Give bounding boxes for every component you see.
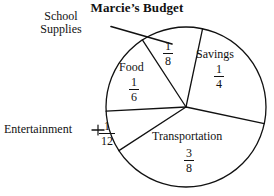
slice-value-food: 1 6 — [129, 76, 139, 103]
pie-chart-figure: Marcie’s Budget School Supplies 1 8 Food… — [0, 0, 274, 196]
slice-value-transportation-numerator: 3 — [184, 147, 194, 159]
slice-label-transportation: Transportation — [152, 130, 222, 142]
slice-value-food-numerator: 1 — [129, 76, 139, 88]
slice-value-savings-denominator: 4 — [214, 78, 224, 90]
slice-value-school-supplies-numerator: 1 — [163, 40, 173, 52]
slice-value-savings-numerator: 1 — [214, 63, 224, 75]
slice-value-school-supplies-denominator: 8 — [163, 55, 173, 67]
slice-value-savings: 1 4 — [214, 63, 224, 90]
slice-label-school-supplies-line1: School — [22, 10, 100, 23]
slice-value-entertainment-denominator: 12 — [99, 135, 115, 147]
slice-label-entertainment: Entertainment — [4, 123, 72, 135]
slice-value-food-denominator: 6 — [129, 91, 139, 103]
slice-value-school-supplies: 1 8 — [163, 40, 173, 67]
slice-label-food: Food — [119, 61, 144, 73]
slice-label-savings: Savings — [196, 48, 234, 60]
page-title: Marcie’s Budget — [91, 1, 184, 14]
slice-value-transportation-denominator: 8 — [184, 162, 194, 174]
slice-value-entertainment-numerator: 1 — [99, 120, 115, 132]
slice-label-school-supplies-line2: Supplies — [22, 23, 100, 36]
slice-label-school-supplies: School Supplies — [22, 10, 100, 35]
slice-value-transportation: 3 8 — [184, 147, 194, 174]
slice-value-entertainment: 1 12 — [99, 120, 115, 147]
